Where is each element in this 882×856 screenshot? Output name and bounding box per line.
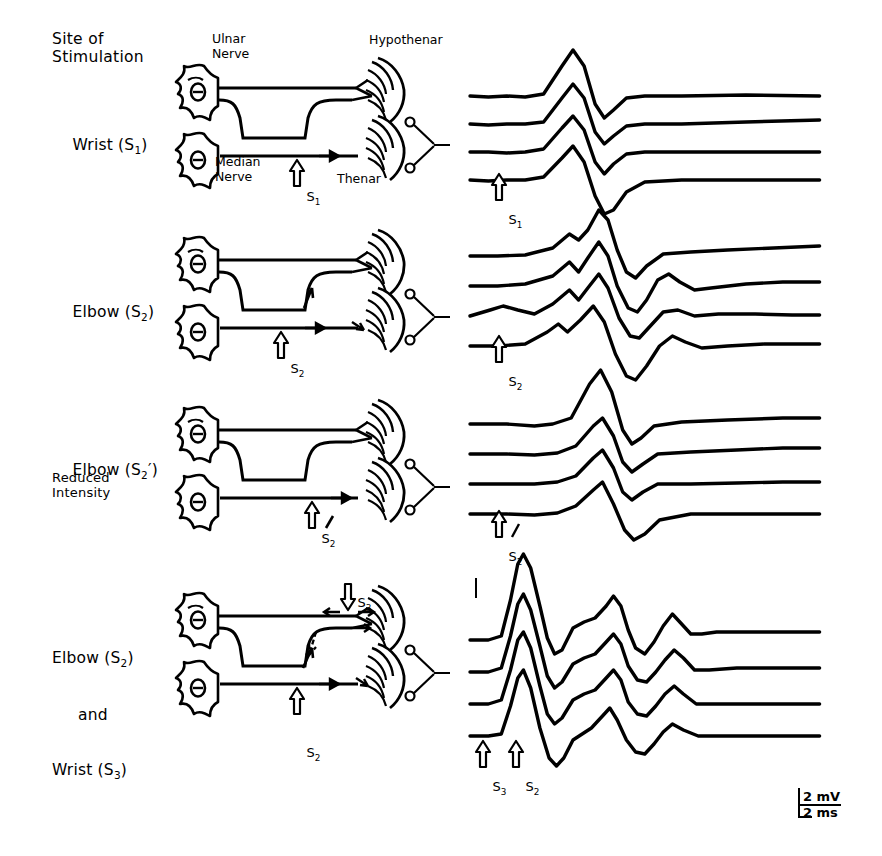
stim-arrow-s2-diagram bbox=[290, 688, 304, 714]
emg-trace bbox=[470, 274, 820, 338]
emg-trace bbox=[470, 450, 820, 500]
emg-trace bbox=[470, 632, 820, 724]
hypothenar-muscle-icon bbox=[366, 586, 404, 650]
hypothenar-muscle-icon bbox=[366, 58, 404, 122]
row-label-tail: ) bbox=[141, 136, 147, 154]
emg-trace bbox=[470, 50, 820, 118]
anatomy-label-ulnar-nerve: Ulnar Nerve bbox=[212, 32, 249, 62]
row-label-tail: ) bbox=[152, 461, 158, 479]
diagram-elbow-s2-and-wrist-s3 bbox=[176, 584, 450, 716]
diagram-elbow-s2 bbox=[176, 230, 450, 360]
row-label-subscript-2: 3 bbox=[114, 769, 121, 781]
row-label-elbow-s2-and-wrist-s3: Elbow (S2) and Wrist (S3) bbox=[52, 612, 134, 818]
row-label-text: Wrist (S bbox=[73, 136, 135, 154]
row-label-wrist-s1: Wrist (S1) bbox=[52, 118, 148, 175]
propagation-arrow-distal bbox=[319, 151, 339, 161]
row-label-line3: Wrist (S3) bbox=[52, 761, 134, 782]
stim-subscript: 2 bbox=[299, 369, 305, 379]
emg-trace bbox=[470, 370, 820, 444]
row-label-text: Elbow (S bbox=[73, 303, 142, 321]
diagram-stim-label-s2: S2 bbox=[274, 346, 304, 395]
diagram-elbow-s2-prime bbox=[176, 400, 450, 530]
stim-subscript: 2 bbox=[534, 787, 540, 797]
emg-trace bbox=[470, 116, 820, 174]
emg-trace bbox=[470, 306, 820, 380]
hypothenar-muscle-icon bbox=[366, 400, 404, 464]
row-label-tail: ) bbox=[148, 303, 154, 321]
row-label-line2: and bbox=[52, 706, 134, 724]
trace-stim-label-s2: S2 bbox=[492, 359, 522, 408]
row-label-subscript: 2 bbox=[141, 469, 148, 481]
emg-trace bbox=[470, 146, 820, 214]
stim-subscript: 2 bbox=[517, 557, 523, 567]
stim-letter: S bbox=[358, 595, 366, 610]
figure-root: Site of Stimulation Wrist (S1) Elbow (S2… bbox=[0, 0, 882, 856]
propagation-arrow-distal bbox=[305, 323, 325, 333]
propagation-arrow-deep-branch-up bbox=[303, 648, 313, 668]
figure-header: Site of Stimulation bbox=[52, 30, 144, 67]
emg-trace bbox=[470, 242, 820, 312]
stim-letter: S bbox=[322, 531, 330, 546]
row-label-text: Elbow (S bbox=[52, 649, 121, 667]
propagation-arrow-distal bbox=[319, 679, 339, 689]
stim-subscript: 1 bbox=[517, 220, 523, 230]
emg-trace bbox=[470, 418, 820, 472]
median-soma-icon bbox=[176, 305, 218, 360]
diagram-stim-label-s2-row4: S2 bbox=[290, 730, 320, 779]
stim-letter: S bbox=[493, 779, 501, 794]
row-label-tail: ) bbox=[127, 649, 133, 667]
diagram-stim-label-s1: S1 bbox=[290, 174, 320, 223]
recording-electrode-icon bbox=[406, 646, 451, 701]
propagation-arrow-distal bbox=[331, 493, 351, 503]
ulnar-soma-icon bbox=[176, 237, 218, 292]
row-sublabel-reduced-intensity: Reduced Intensity bbox=[52, 470, 110, 501]
scale-bar-labels: 2 mV 2 ms bbox=[800, 790, 841, 819]
median-soma-icon bbox=[176, 133, 218, 188]
propagation-arrow-ulnar-up bbox=[304, 288, 313, 308]
stim-subscript: 2 bbox=[517, 382, 523, 392]
row-label-subscript: 2 bbox=[141, 311, 148, 323]
emg-trace bbox=[470, 554, 820, 654]
stim-letter: S bbox=[307, 189, 315, 204]
anatomy-label-median-nerve: Median Nerve bbox=[215, 155, 260, 185]
propagation-arrow-thenar bbox=[352, 322, 364, 330]
thenar-muscle-icon bbox=[366, 644, 404, 708]
diagram-stim-label-s2-prime: S2 bbox=[305, 516, 335, 565]
median-soma-icon bbox=[176, 661, 218, 716]
ulnar-soma-icon bbox=[176, 65, 218, 120]
anatomy-label-hypothenar: Hypothenar bbox=[369, 33, 443, 48]
stim-letter: S bbox=[509, 374, 517, 389]
emg-panel-wrist-s1 bbox=[470, 50, 820, 214]
emg-trace bbox=[470, 670, 820, 766]
emg-panel-elbow-s2-prime bbox=[470, 370, 820, 540]
stim-letter: S bbox=[509, 212, 517, 227]
stim-letter: S bbox=[291, 361, 299, 376]
recording-electrode-icon bbox=[406, 290, 451, 345]
row-label-tail-2: ) bbox=[121, 761, 127, 779]
row-label-text-2: Wrist (S bbox=[52, 761, 114, 779]
stim-subscript: 2 bbox=[330, 539, 336, 549]
thenar-muscle-icon bbox=[366, 288, 404, 352]
stim-subscript: 1 bbox=[315, 197, 321, 207]
stim-letter: S bbox=[509, 549, 517, 564]
anatomy-label-thenar: Thenar bbox=[337, 172, 381, 187]
scale-amplitude-label: 2 mV bbox=[800, 790, 841, 806]
propagation-arrow-deep-branch-down bbox=[309, 632, 316, 654]
stim-subscript: 2 bbox=[315, 753, 321, 763]
trace-stim-label-s2-prime: S2 bbox=[492, 534, 522, 583]
emg-trace bbox=[470, 210, 820, 278]
trace-stim-label-s2-row4: S2 bbox=[509, 764, 539, 813]
stim-subscript: 3 bbox=[501, 787, 507, 797]
emg-traces-layer bbox=[470, 50, 820, 766]
ulnar-soma-icon bbox=[176, 593, 218, 648]
emg-panel-elbow-s2 bbox=[470, 210, 820, 380]
ulnar-soma-icon bbox=[176, 407, 218, 462]
emg-trace bbox=[470, 482, 820, 540]
propagation-arrow-thenar bbox=[356, 678, 368, 686]
median-soma-icon bbox=[176, 475, 218, 530]
emg-trace bbox=[470, 594, 820, 688]
hypothenar-muscle-icon bbox=[366, 230, 404, 294]
recording-electrode-icon bbox=[406, 460, 451, 515]
stim-letter: S bbox=[526, 779, 534, 794]
recording-electrode-icon bbox=[406, 118, 451, 173]
